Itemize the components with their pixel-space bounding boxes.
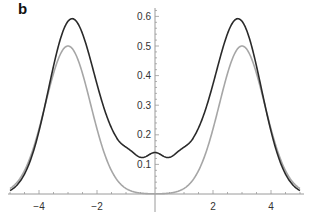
y-tick-label: 0.1 [137,159,151,170]
x-tick-label: 4 [268,201,274,212]
y-tick-label: 0.6 [137,11,151,22]
x-tick-label: 2 [210,201,216,212]
line-chart: −4−2240.10.20.30.40.50.6 [0,0,312,214]
axes [8,8,304,212]
y-tick-label: 0.3 [137,100,151,111]
y-tick-label: 0.4 [137,70,151,81]
tick-labels: −4−2240.10.20.30.40.50.6 [33,11,274,212]
y-tick-label: 0.5 [137,41,151,52]
x-tick-label: −4 [33,201,45,212]
x-tick-label: −2 [91,201,103,212]
y-tick-label: 0.2 [137,129,151,140]
